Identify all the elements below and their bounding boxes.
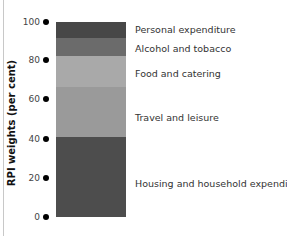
tick-marker-dot	[43, 175, 49, 181]
segment-housing	[56, 137, 126, 217]
tick-marker-dot	[43, 136, 49, 142]
stacked-bar	[56, 22, 126, 217]
label-travel-and-leisure: Travel and leisure	[135, 112, 219, 123]
segment-alcohol-and-tobacco	[56, 38, 126, 56]
y-tick-40: 40	[6, 134, 40, 144]
tick-marker-dot	[43, 96, 49, 102]
label-personal-expenditure: Personal expenditure	[135, 24, 236, 35]
y-tick-80: 80	[6, 55, 40, 65]
y-tick-100: 100	[6, 17, 40, 27]
left-border-line	[3, 0, 4, 236]
segment-personal-expenditure	[56, 22, 126, 38]
y-tick-0: 0	[6, 212, 40, 222]
tick-marker-dot	[43, 19, 49, 25]
y-tick-20: 20	[6, 173, 40, 183]
segment-travel-and-leisure	[56, 87, 126, 137]
segment-food-and-catering	[56, 56, 126, 87]
tick-marker-dot	[43, 57, 49, 63]
y-tick-60: 60	[6, 94, 40, 104]
label-housing: Housing and household expenditure	[135, 178, 287, 189]
label-food-and-catering: Food and catering	[135, 68, 221, 79]
label-alcohol-and-tobacco: Alcohol and tobacco	[135, 43, 231, 54]
y-axis-label-text: RPI weights (per cent)	[6, 60, 17, 186]
tick-marker-dot	[43, 214, 49, 220]
